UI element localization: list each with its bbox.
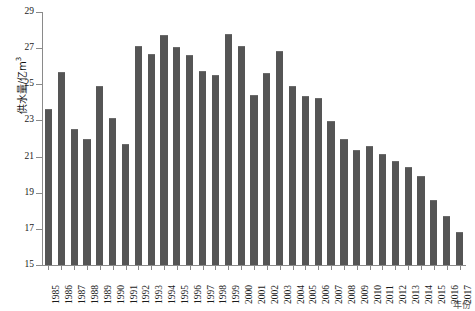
x-axis-tick-label: 2002 [271, 285, 281, 304]
x-axis-tick-label: 2001 [258, 285, 268, 304]
x-axis-tick [280, 266, 281, 270]
bar [405, 167, 412, 265]
x-axis-tick [87, 266, 88, 270]
x-axis-tick-label: 1985 [52, 285, 62, 304]
x-axis-tick [228, 266, 229, 270]
x-axis-tick-label: 1987 [78, 285, 88, 304]
y-axis-tick-label: 27 [12, 43, 34, 53]
x-axis-tick-label: 1997 [207, 285, 217, 304]
bar [122, 144, 129, 265]
x-axis-tick-label: 2004 [297, 285, 307, 304]
x-axis-tick [61, 266, 62, 270]
x-axis-tick-label: 2010 [374, 285, 384, 304]
x-axis-tick [74, 266, 75, 270]
x-axis-tick [215, 266, 216, 270]
x-axis-tick-label: 1988 [91, 285, 101, 304]
x-axis-tick [318, 266, 319, 270]
bar [225, 34, 232, 265]
x-axis-tick [305, 266, 306, 270]
x-axis-tick-label: 1999 [232, 285, 242, 304]
y-axis-tick-label: 17 [12, 224, 34, 234]
y-axis-tick-label: 23 [12, 115, 34, 125]
x-axis-tick [293, 266, 294, 270]
bar [353, 150, 360, 265]
bar [340, 139, 347, 266]
bar [263, 73, 270, 265]
y-axis-title-exponent: 3 [15, 57, 23, 61]
x-axis-tick [267, 266, 268, 270]
x-axis-tick [241, 266, 242, 270]
bar [276, 51, 283, 265]
y-axis-tick-label: 21 [12, 152, 34, 162]
x-axis-tick [151, 266, 152, 270]
x-axis-tick [100, 266, 101, 270]
x-axis-tick [382, 266, 383, 270]
x-axis-tick-label: 1998 [219, 285, 229, 304]
x-axis-tick-label: 2014 [425, 285, 435, 304]
bar [83, 139, 90, 265]
bars-layer [42, 12, 466, 265]
bar [379, 154, 386, 265]
x-axis-tick [113, 266, 114, 270]
x-axis-tick [370, 266, 371, 270]
y-axis-tick-label: 15 [12, 260, 34, 270]
x-axis-tick [190, 266, 191, 270]
x-axis-tick [203, 266, 204, 270]
bar [186, 55, 193, 265]
y-axis-tick [36, 265, 42, 266]
bar [315, 98, 322, 265]
bar [160, 35, 167, 265]
x-axis-tick-label: 2012 [399, 285, 409, 304]
bar [392, 161, 399, 265]
bar [45, 109, 52, 265]
x-axis-tick-label: 1995 [181, 285, 191, 304]
bar [289, 86, 296, 265]
y-axis-tick-label: 29 [12, 7, 34, 17]
bar [109, 118, 116, 265]
bar [71, 129, 78, 265]
x-axis-tick-label: 2011 [386, 285, 396, 304]
x-axis-tick [395, 266, 396, 270]
x-axis-tick-label: 2013 [412, 285, 422, 304]
bar [430, 200, 437, 265]
x-axis-tick-label: 1994 [168, 285, 178, 304]
bar [173, 47, 180, 265]
y-axis-tick-label: 25 [12, 79, 34, 89]
x-axis-tick-label: 2000 [245, 285, 255, 304]
x-axis-tick [138, 266, 139, 270]
bar [302, 96, 309, 265]
x-axis-tick [421, 266, 422, 270]
x-axis-tick [254, 266, 255, 270]
x-axis-tick [331, 266, 332, 270]
x-axis-tick-label: 1989 [104, 285, 114, 304]
x-axis-tick-label: 2006 [322, 285, 332, 304]
bar [148, 54, 155, 265]
bar [199, 71, 206, 265]
x-axis-title: 年份 [453, 298, 471, 311]
x-axis-tick-label: 1992 [142, 285, 152, 304]
x-axis-tick-label: 2003 [284, 285, 294, 304]
x-axis-tick-label: 1993 [155, 285, 165, 304]
bar [443, 216, 450, 265]
x-axis-tick [434, 266, 435, 270]
x-axis-tick-label: 1991 [130, 285, 140, 304]
x-axis-tick-label: 1996 [194, 285, 204, 304]
x-axis-tick-label: 2009 [361, 285, 371, 304]
bar [250, 95, 257, 265]
x-axis-tick-label: 2007 [335, 285, 345, 304]
x-axis-tick [177, 266, 178, 270]
x-axis-tick-label: 2008 [348, 285, 358, 304]
x-axis-tick [344, 266, 345, 270]
bar [96, 86, 103, 265]
bar [417, 176, 424, 265]
x-axis-tick-label: 1990 [117, 285, 127, 304]
x-axis-tick [126, 266, 127, 270]
y-axis-tick-label: 19 [12, 188, 34, 198]
bar [135, 46, 142, 265]
x-axis-tick-label: 2015 [438, 285, 448, 304]
x-axis-tick [357, 266, 358, 270]
x-axis-tick [460, 266, 461, 270]
x-axis-tick-label: 1986 [65, 285, 75, 304]
x-axis-tick [447, 266, 448, 270]
